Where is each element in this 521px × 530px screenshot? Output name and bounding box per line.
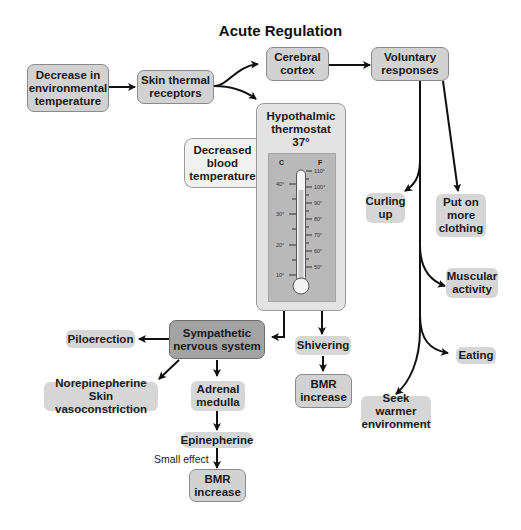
- node-sympathetic-nervous-system: Sympathetic nervous system: [169, 320, 265, 359]
- node-curling-up: Curling up: [366, 193, 405, 223]
- node-seek-warmer: Seek warmer environment: [361, 396, 431, 426]
- node-piloerection: Piloerection: [66, 330, 135, 348]
- node-voluntary-responses: Voluntary responses: [371, 47, 449, 81]
- thermometer-icon: [269, 154, 335, 301]
- thermometer: C F: [268, 153, 336, 302]
- node-norepinephrine: Norepinepherine Skin vasoconstriction: [44, 382, 158, 411]
- node-adrenal-medulla: Adrenal medulla: [191, 381, 245, 411]
- node-muscular-activity: Muscular activity: [446, 268, 498, 298]
- node-epinephrine: Epinepherine: [182, 432, 252, 448]
- node-cerebral-cortex: Cerebral cortex: [266, 47, 329, 81]
- node-eating: Eating: [456, 347, 496, 364]
- node-shivering: Shivering: [295, 336, 351, 355]
- small-effect-annotation: Small effect: [154, 453, 209, 465]
- node-bmr-increase-bottom: BMR increase: [189, 469, 246, 502]
- node-decreased-blood-temp: Decreased blood temperature: [184, 138, 260, 188]
- node-decrease-env-temp: Decrease in environmental temperature: [27, 64, 109, 112]
- node-hypothalamic-thermostat: Hypothalmic thermostat 37° C F: [256, 103, 346, 311]
- node-put-on-clothing: Put on more clothing: [436, 194, 486, 237]
- node-bmr-increase-right: BMR increase: [295, 374, 352, 408]
- node-skin-receptors: Skin thermal receptors: [137, 70, 214, 104]
